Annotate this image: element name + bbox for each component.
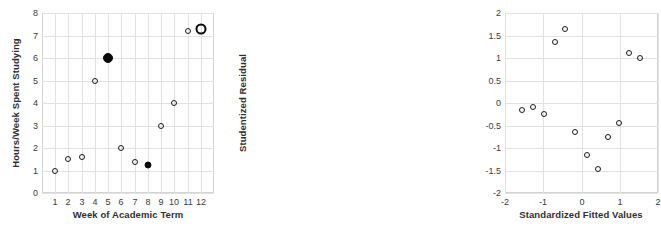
gridline-horizontal bbox=[505, 126, 658, 127]
data-point bbox=[171, 100, 177, 106]
data-point bbox=[65, 156, 71, 162]
x-axis-title-left: Week of Academic Term bbox=[73, 209, 184, 220]
data-point bbox=[519, 107, 525, 113]
data-point bbox=[605, 134, 611, 140]
data-point bbox=[530, 104, 536, 110]
data-point bbox=[541, 111, 547, 117]
x-tick-label: 6 bbox=[118, 197, 123, 207]
x-tick-label: 8 bbox=[145, 197, 150, 207]
x-tick-label: 3 bbox=[79, 197, 84, 207]
gridline-horizontal bbox=[42, 81, 214, 82]
x-axis-title-right: Standardized Fitted Values bbox=[519, 209, 643, 220]
gridline-horizontal bbox=[505, 81, 658, 82]
x-tick-label: 9 bbox=[158, 197, 163, 207]
x-tick-label: 2 bbox=[65, 197, 70, 207]
data-point bbox=[158, 123, 164, 129]
y-tick-label: -0.5 bbox=[225, 121, 501, 131]
y-tick-label: -1.5 bbox=[225, 166, 501, 176]
gridline-horizontal bbox=[42, 193, 214, 194]
data-point bbox=[595, 166, 601, 172]
gridline-horizontal bbox=[505, 36, 658, 37]
gridline-horizontal bbox=[505, 171, 658, 172]
data-point bbox=[118, 145, 124, 151]
gridline-horizontal bbox=[42, 103, 214, 104]
data-point bbox=[103, 53, 113, 63]
gridline-horizontal bbox=[42, 13, 214, 14]
x-tick-label: -2 bbox=[501, 197, 509, 207]
x-tick-label: 5 bbox=[105, 197, 110, 207]
gridline-horizontal bbox=[42, 148, 214, 149]
y-tick-label: -2 bbox=[225, 188, 501, 198]
gridline-vertical bbox=[658, 13, 659, 193]
y-tick-label: 1.5 bbox=[225, 31, 501, 41]
y-tick-label: 2 bbox=[225, 8, 501, 18]
x-tick-label: -1 bbox=[539, 197, 547, 207]
data-point bbox=[52, 168, 58, 174]
data-point bbox=[562, 26, 568, 32]
x-tick-label: 1 bbox=[617, 197, 622, 207]
x-tick-label: 2 bbox=[655, 197, 660, 207]
x-tick-label: 12 bbox=[196, 197, 206, 207]
y-axis-title-left: Hours/Week Spent Studying bbox=[10, 13, 21, 193]
gridline-horizontal bbox=[505, 193, 658, 194]
y-tick-label: 0 bbox=[225, 98, 501, 108]
gridline-horizontal bbox=[42, 126, 214, 127]
gridline-horizontal bbox=[505, 103, 658, 104]
gridline-horizontal bbox=[505, 148, 658, 149]
x-tick-label: 4 bbox=[92, 197, 97, 207]
chart-panel-study-hours: 123456789101112012345678 Week of Academi… bbox=[0, 0, 225, 237]
data-point bbox=[144, 161, 151, 168]
x-tick-label: 0 bbox=[579, 197, 584, 207]
chart-panel-residuals: -2-1012-2-1.5-1-0.500.511.52 Standardize… bbox=[225, 0, 451, 237]
data-point bbox=[572, 129, 578, 135]
data-point bbox=[132, 159, 138, 165]
data-point bbox=[584, 152, 590, 158]
data-point bbox=[637, 55, 643, 61]
data-point bbox=[195, 23, 206, 34]
x-tick-label: 7 bbox=[132, 197, 137, 207]
x-tick-label: 11 bbox=[183, 197, 192, 207]
data-point bbox=[626, 50, 632, 56]
gridline-horizontal bbox=[42, 36, 214, 37]
gridline-horizontal bbox=[42, 58, 214, 59]
data-point bbox=[79, 154, 85, 160]
gridline-horizontal bbox=[505, 58, 658, 59]
data-point bbox=[92, 78, 98, 84]
data-point bbox=[185, 28, 191, 34]
gridline-horizontal bbox=[505, 13, 658, 14]
gridline-horizontal bbox=[42, 171, 214, 172]
y-axis-title-right: Studentized Residual bbox=[237, 13, 248, 193]
data-point bbox=[616, 120, 622, 126]
y-tick-label: 0.5 bbox=[225, 76, 501, 86]
x-tick-label: 10 bbox=[169, 197, 179, 207]
y-tick-label: 1 bbox=[225, 53, 501, 63]
y-tick-label: -1 bbox=[225, 143, 501, 153]
x-tick-label: 1 bbox=[52, 197, 57, 207]
data-point bbox=[552, 39, 558, 45]
